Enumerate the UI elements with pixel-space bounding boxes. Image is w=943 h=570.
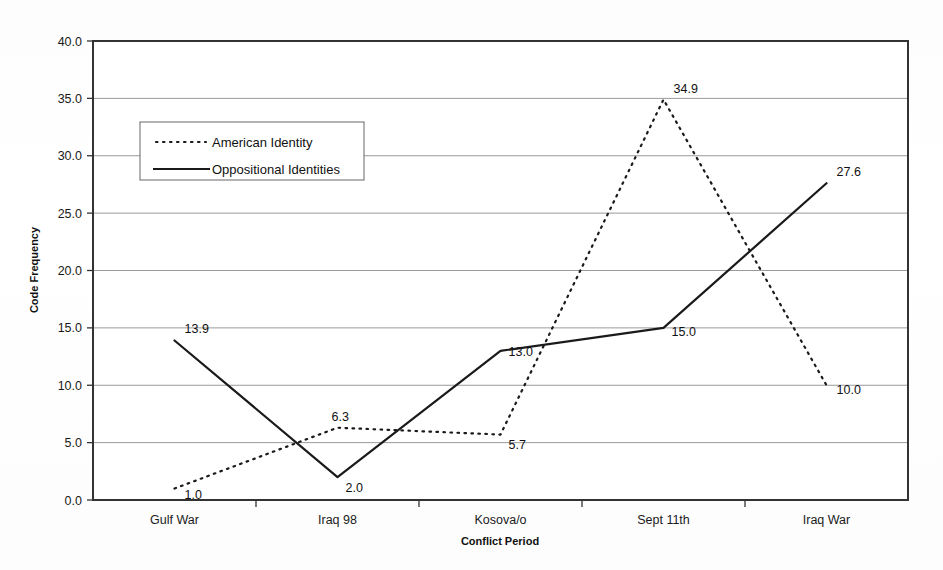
x-axis-category-label: Sept 11th xyxy=(637,513,690,527)
x-axis-title: Conflict Period xyxy=(461,535,539,547)
chart-legend: American Identity Oppositional Identitie… xyxy=(140,122,364,180)
x-axis-category-label: Kosova/o xyxy=(474,513,526,527)
data-point-label: 34.9 xyxy=(674,82,698,96)
line-chart: 0.05.010.015.020.025.030.035.040.0 Gulf … xyxy=(0,0,943,570)
y-axis-tick-label: 20.0 xyxy=(58,264,82,278)
data-point-label: 13.0 xyxy=(509,345,533,359)
y-axis-tick-label: 35.0 xyxy=(58,92,82,106)
x-axis-category-label: Gulf War xyxy=(150,513,199,527)
data-point-label: 13.9 xyxy=(185,322,209,336)
data-point-label: 15.0 xyxy=(672,325,696,339)
y-axis-tick-label: 10.0 xyxy=(58,379,82,393)
chart-figure: 0.05.010.015.020.025.030.035.040.0 Gulf … xyxy=(0,0,943,570)
y-axis-title: Code Frequency xyxy=(28,226,40,313)
y-axis-tick-label: 30.0 xyxy=(58,149,82,163)
x-axis: Gulf WarIraq 98Kosova/oSept 11thIraq War xyxy=(93,500,908,527)
y-axis-tick-label: 15.0 xyxy=(58,321,82,335)
data-point-label: 5.7 xyxy=(509,438,526,452)
x-axis-category-label: Iraq War xyxy=(803,513,850,527)
y-axis-tick-label: 0.0 xyxy=(65,494,82,508)
data-point-label: 1.0 xyxy=(185,488,202,502)
legend-label-oppositional-identities: Oppositional Identities xyxy=(212,162,340,177)
x-axis-category-label: Iraq 98 xyxy=(318,513,357,527)
y-axis-tick-label: 40.0 xyxy=(58,35,82,49)
data-point-label: 6.3 xyxy=(332,410,349,424)
legend-label-american-identity: American Identity xyxy=(212,135,313,150)
y-axis-tick-label: 5.0 xyxy=(65,436,82,450)
y-axis-tick-label: 25.0 xyxy=(58,207,82,221)
data-point-label: 10.0 xyxy=(837,383,861,397)
data-point-label: 27.6 xyxy=(837,165,861,179)
data-point-label: 2.0 xyxy=(346,481,363,495)
y-axis: 0.05.010.015.020.025.030.035.040.0 xyxy=(58,35,93,508)
